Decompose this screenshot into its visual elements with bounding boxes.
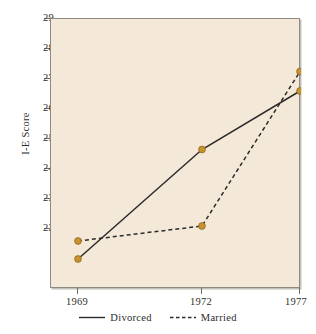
plot-area — [50, 18, 300, 288]
legend-label-divorced: Divorced — [110, 312, 151, 323]
y-tick-label-24: 24 — [14, 163, 54, 173]
y-tick-label-29: 29 — [14, 13, 54, 23]
x-tick-label-1972: 1972 — [171, 296, 231, 307]
plot-svg — [51, 19, 301, 289]
data-point-married-1972 — [199, 223, 206, 230]
legend-entry-married: Married — [170, 312, 237, 323]
legend-swatch-dashed-line-icon — [170, 314, 196, 321]
y-tick-label-26: 26 — [14, 103, 54, 113]
x-tick-label-1969: 1969 — [47, 296, 107, 307]
data-point-divorced-1972 — [199, 146, 206, 153]
data-point-married-1969 — [75, 238, 82, 245]
x-tick-mark-1977 — [299, 288, 300, 294]
y-tick-label-23: 23 — [14, 193, 54, 203]
legend-swatch-solid-line-icon — [79, 314, 105, 321]
data-point-divorced-1977 — [297, 88, 301, 95]
chart-legend: Divorced Married — [0, 312, 316, 323]
legend-label-married: Married — [201, 312, 237, 323]
data-point-divorced-1969 — [75, 256, 82, 263]
series-line-married — [78, 72, 300, 242]
x-tick-mark-1969 — [77, 288, 78, 294]
data-point-married-1977 — [297, 68, 301, 75]
y-tick-label-25: 25 — [14, 133, 54, 143]
legend-entry-divorced: Divorced — [79, 312, 151, 323]
series-line-divorced — [78, 91, 300, 259]
y-tick-label-28: 28 — [14, 43, 54, 53]
x-tick-label-1977: 1977 — [266, 296, 316, 307]
y-tick-label-22: 22 — [14, 223, 54, 233]
x-tick-mark-1972 — [201, 288, 202, 294]
chart-figure: I-E Score 29 28 27 26 25 24 23 22 — [0, 0, 316, 334]
y-tick-label-27: 27 — [14, 73, 54, 83]
